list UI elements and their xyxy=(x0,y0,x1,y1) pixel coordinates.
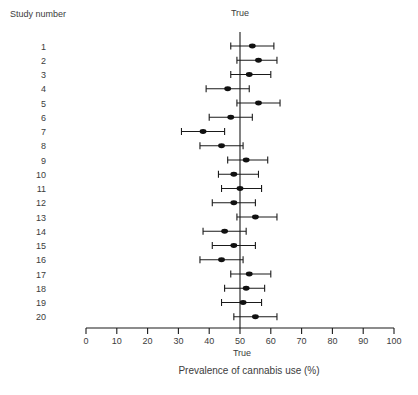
point-estimate-marker xyxy=(252,215,259,220)
study-number-label: 9 xyxy=(41,156,46,166)
study-number-label: 14 xyxy=(36,227,46,237)
x-tick-label: 40 xyxy=(204,336,214,346)
point-estimate-marker xyxy=(200,129,207,134)
study-number-label: 20 xyxy=(36,312,46,322)
forest-plot-figure: Study number True 1234567891011121314151… xyxy=(0,0,418,395)
point-estimate-marker xyxy=(230,243,237,248)
point-estimate-marker xyxy=(243,286,250,291)
point-estimate-marker xyxy=(255,58,262,63)
point-estimate-marker xyxy=(246,72,253,77)
point-estimate-marker xyxy=(246,272,253,277)
point-estimate-marker xyxy=(218,257,225,262)
study-number-label: 19 xyxy=(36,298,46,308)
study-number-label: 4 xyxy=(41,84,46,94)
x-tick-label: 90 xyxy=(358,336,368,346)
study-number-label: 7 xyxy=(41,127,46,137)
x-tick-label: 100 xyxy=(386,336,401,346)
study-number-label: 6 xyxy=(41,113,46,123)
point-estimate-marker xyxy=(255,101,262,106)
plot-canvas: 1234567891011121314151617181920010203040… xyxy=(0,0,418,395)
study-number-label: 5 xyxy=(41,99,46,109)
study-number-label: 15 xyxy=(36,241,46,251)
study-number-label: 18 xyxy=(36,284,46,294)
point-estimate-marker xyxy=(230,172,237,177)
study-number-label: 8 xyxy=(41,141,46,151)
x-axis-title: Prevalence of cannabis use (%) xyxy=(178,365,319,376)
point-estimate-marker xyxy=(243,158,250,163)
point-estimate-marker xyxy=(252,314,259,319)
study-number-label: 3 xyxy=(41,70,46,80)
x-tick-label: 60 xyxy=(266,336,276,346)
x-tick-label: 20 xyxy=(143,336,153,346)
point-estimate-marker xyxy=(230,200,237,205)
study-number-label: 12 xyxy=(36,198,46,208)
x-tick-label: 30 xyxy=(173,336,183,346)
point-estimate-marker xyxy=(221,229,228,234)
study-number-label: 16 xyxy=(36,255,46,265)
study-number-label: 11 xyxy=(37,184,46,194)
x-tick-label: 0 xyxy=(83,336,88,346)
study-number-label: 10 xyxy=(36,170,46,180)
point-estimate-marker xyxy=(224,86,231,91)
point-estimate-marker xyxy=(240,300,247,305)
study-number-label: 2 xyxy=(41,56,46,66)
x-tick-label: 50 xyxy=(235,336,245,346)
x-tick-label: 70 xyxy=(297,336,307,346)
point-estimate-marker xyxy=(237,186,244,191)
x-tick-label: 80 xyxy=(327,336,337,346)
point-estimate-marker xyxy=(218,143,225,148)
reference-label-bottom: True xyxy=(233,348,251,359)
point-estimate-marker xyxy=(249,44,256,49)
study-number-label: 13 xyxy=(36,213,46,223)
study-number-label: 17 xyxy=(36,270,46,280)
point-estimate-marker xyxy=(227,115,234,120)
study-number-label: 1 xyxy=(41,42,46,52)
x-tick-label: 10 xyxy=(112,336,122,346)
